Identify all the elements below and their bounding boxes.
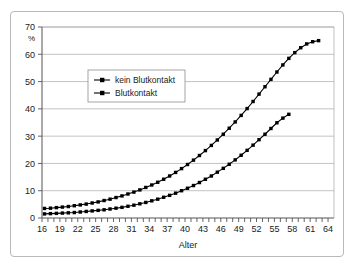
series-marker (168, 194, 171, 197)
y-axis-tick-label: 70 (25, 22, 35, 32)
x-axis-tick-label: 25 (91, 224, 101, 234)
series-marker (251, 143, 254, 146)
series-marker (251, 100, 254, 103)
y-axis-unit-label: % (28, 34, 35, 43)
series-marker (61, 205, 64, 208)
series-marker (228, 127, 231, 130)
series-marker (90, 209, 93, 212)
series-marker (102, 208, 105, 211)
series-marker (90, 201, 93, 204)
series-line (45, 41, 319, 209)
series-marker (287, 57, 290, 60)
series-marker (144, 201, 147, 204)
y-axis-tick-label: 50 (25, 77, 35, 87)
y-axis-tick-label: 40 (25, 104, 35, 114)
x-axis-tick-label: 31 (126, 224, 136, 234)
series-marker (180, 167, 183, 170)
series-marker (216, 138, 219, 141)
series-marker (55, 206, 58, 209)
x-axis-tick-label: 22 (73, 224, 83, 234)
series-marker (198, 181, 201, 184)
series-line (45, 114, 289, 214)
series-marker (156, 197, 159, 200)
series-marker (85, 210, 88, 213)
x-axis-tick-label: 40 (180, 224, 190, 234)
series-marker (156, 181, 159, 184)
legend-entry-label: kein Blutkontakt (115, 75, 176, 85)
series-marker (79, 203, 82, 206)
series-marker (233, 158, 236, 161)
y-axis-tick-label: 0 (30, 213, 35, 223)
series-marker (210, 144, 213, 147)
x-axis-tick-label: 46 (216, 224, 226, 234)
x-axis-tick-label: 43 (198, 224, 208, 234)
y-axis-tick-label: 20 (25, 159, 35, 169)
series-marker (61, 211, 64, 214)
series-marker (132, 203, 135, 206)
series-marker (222, 167, 225, 170)
series-marker (55, 212, 58, 215)
series-marker (198, 154, 201, 157)
series-marker (192, 184, 195, 187)
x-axis-tick-label: 64 (323, 224, 333, 234)
series-marker (233, 120, 236, 123)
series-marker (180, 189, 183, 192)
series-marker (162, 196, 165, 199)
series-marker (43, 207, 46, 210)
series-marker (168, 174, 171, 177)
series-marker (96, 200, 99, 203)
series-marker (311, 40, 314, 43)
series-marker (114, 206, 117, 209)
series-marker (49, 206, 52, 209)
x-axis-tick-label: 19 (55, 224, 65, 234)
series-marker (275, 70, 278, 73)
series-marker (132, 190, 135, 193)
series-marker (108, 197, 111, 200)
series-2 (43, 113, 291, 216)
series-marker (263, 85, 266, 88)
x-axis-tick-label: 37 (162, 224, 172, 234)
x-axis-tick-label: 58 (287, 224, 297, 234)
series-marker (245, 107, 248, 110)
chart-figure: 010203040506070%161922252831343740434649… (0, 0, 356, 269)
y-axis-tick-label: 60 (25, 50, 35, 60)
legend-marker-square (100, 78, 104, 82)
line-chart: 010203040506070%161922252831343740434649… (0, 0, 356, 269)
series-marker (144, 186, 147, 189)
series-marker (228, 163, 231, 166)
legend-marker-square (100, 91, 104, 95)
series-marker (210, 174, 213, 177)
series-marker (245, 149, 248, 152)
y-axis-tick-label: 30 (25, 132, 35, 142)
x-axis-tick-label: 28 (109, 224, 119, 234)
series-marker (257, 92, 260, 95)
series-marker (174, 171, 177, 174)
series-marker (222, 133, 225, 136)
series-marker (239, 114, 242, 117)
series-marker (239, 154, 242, 157)
series-marker (138, 202, 141, 205)
series-marker (120, 194, 123, 197)
series-marker (73, 204, 76, 207)
x-axis-tick-label: 34 (144, 224, 154, 234)
series-marker (73, 211, 76, 214)
series-marker (216, 170, 219, 173)
series-marker (108, 207, 111, 210)
series-marker (126, 192, 129, 195)
y-axis-tick-label: 10 (25, 186, 35, 196)
series-marker (293, 51, 296, 54)
series-marker (150, 199, 153, 202)
series-marker (174, 191, 177, 194)
series-marker (96, 209, 99, 212)
series-marker (49, 212, 52, 215)
series-marker (269, 78, 272, 81)
series-marker (281, 116, 284, 119)
series-marker (257, 138, 260, 141)
x-axis-title: Alter (179, 240, 198, 250)
series-marker (263, 133, 266, 136)
series-1 (43, 39, 321, 210)
series-marker (317, 39, 320, 42)
x-axis-tick-label: 61 (305, 224, 315, 234)
series-marker (287, 113, 290, 116)
series-marker (126, 205, 129, 208)
